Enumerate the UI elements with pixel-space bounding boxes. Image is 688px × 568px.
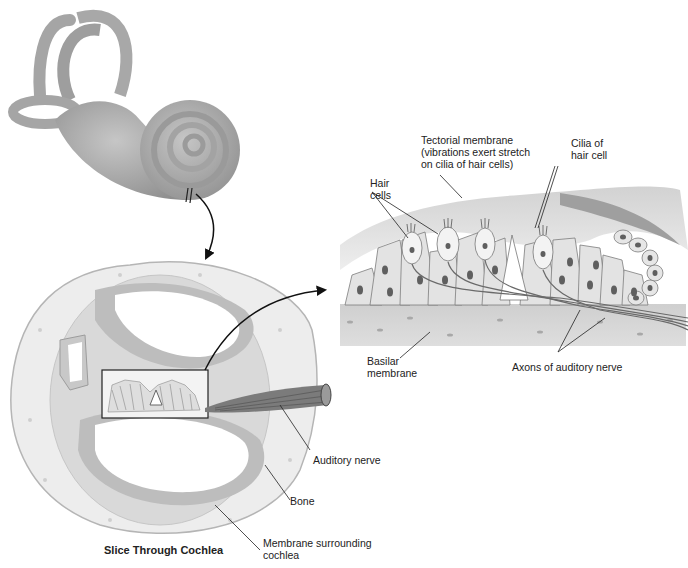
inner-ear-illustration [13, 16, 240, 203]
cilia-label: Cilia of hair cell [571, 137, 607, 161]
axons-label: Axons of auditory nerve [512, 361, 622, 373]
basilar-membrane-label: Basilar membrane [367, 355, 417, 379]
auditory-nerve-label: Auditory nerve [313, 454, 381, 466]
hair-cells-label: Hair cells [370, 177, 391, 201]
membrane-surrounding-label: Membrane surrounding cochlea [263, 537, 372, 561]
diagram-title: Slice Through Cochlea [104, 544, 223, 556]
bone-label: Bone [290, 495, 315, 507]
cochlea-slice [11, 262, 331, 534]
cochlea-diagram [0, 0, 688, 568]
hair-cell-detail [340, 187, 688, 346]
ear-to-slice-arrow [196, 194, 213, 258]
tectorial-membrane-label: Tectorial membrane (vibrations exert str… [421, 134, 530, 170]
